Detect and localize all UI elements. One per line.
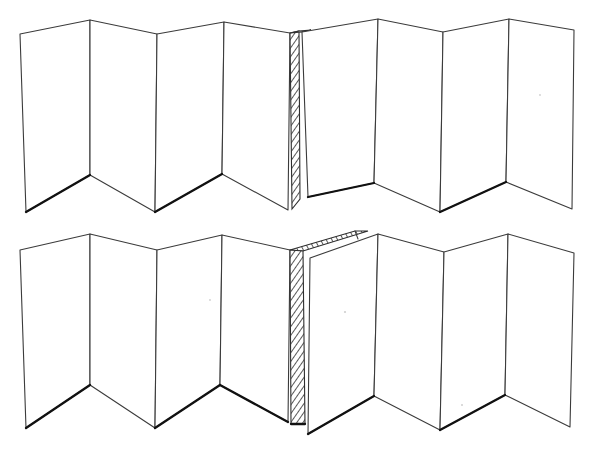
panel-face [302, 19, 378, 197]
panel-face [505, 234, 574, 427]
right-accordion-group-bottom [308, 234, 574, 434]
speck [539, 94, 541, 96]
left-accordion-group-bottom [20, 234, 290, 428]
spine-hatched-face [290, 250, 305, 424]
spine-hatched-face [290, 31, 300, 209]
speck [344, 311, 346, 313]
panel-face [506, 19, 574, 209]
speck [209, 299, 211, 301]
right-accordion-group-top [302, 19, 574, 212]
accordion-fold-illustration: Accordion fold line drawing Two line-art… [0, 0, 593, 459]
panel-face [440, 19, 509, 212]
panel-face [374, 234, 444, 430]
speck [461, 404, 463, 406]
left-accordion-group-top [20, 20, 290, 212]
figure-top [20, 19, 574, 212]
panel-face [374, 19, 443, 212]
